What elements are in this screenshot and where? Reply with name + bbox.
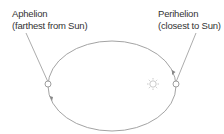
perihelion-leader-line: [176, 33, 196, 82]
orbit-ellipse: [48, 41, 176, 131]
orbit-diagram: [0, 0, 224, 134]
perihelion-marker: [173, 81, 179, 87]
aphelion-leader-line: [26, 33, 48, 82]
sun-icon: [147, 78, 159, 90]
aphelion-marker: [45, 81, 51, 87]
